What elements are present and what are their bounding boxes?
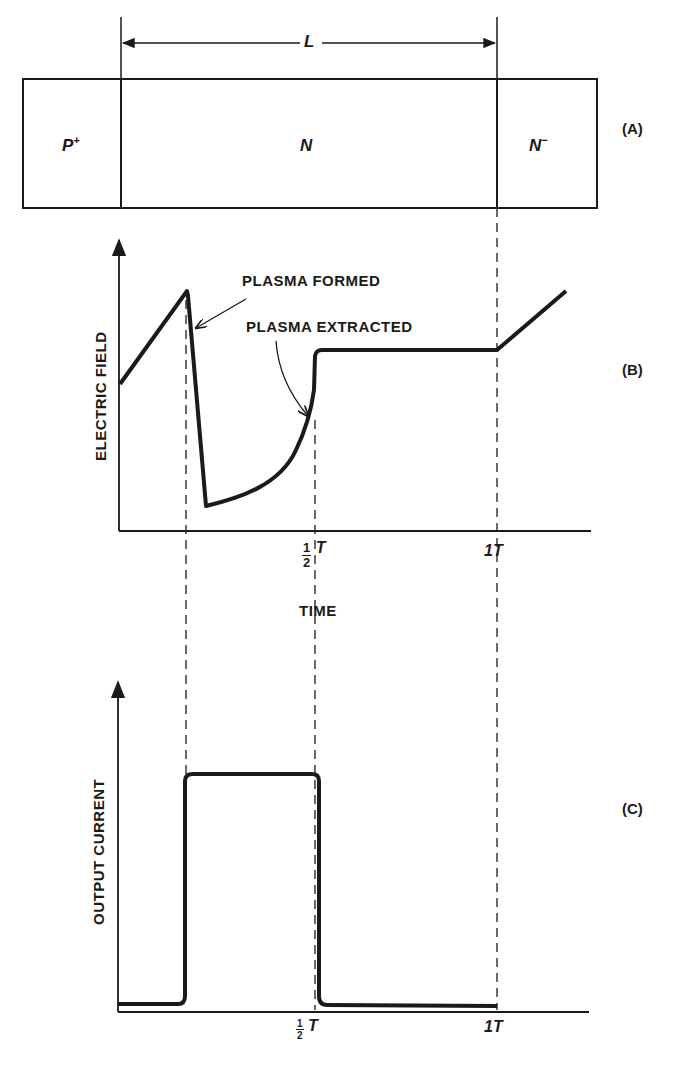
region-n-minus: N− [529,134,548,156]
fraction-denominator-c: 2 [296,1030,304,1041]
tick-T-symbol: T [316,539,326,556]
panel-tag-a: (A) [622,120,643,137]
fraction-one-half: 12 [302,541,311,570]
tick-1T-c: 1T [484,1018,503,1036]
region-p-plus: P+ [62,134,80,156]
panel-tag-c: (C) [622,800,643,817]
annotation-plasma-extracted: PLASMA EXTRACTED [246,318,413,335]
y-axis-label-output-current: OUTPUT CURRENT [90,779,107,925]
tick-T-symbol-c: T [308,1017,318,1034]
panel-tag-b: (B) [622,361,643,378]
region-n-minus-label: N [529,136,541,155]
tick-half-T-b: 12 T [302,541,325,570]
tick-1T-b: 1T [484,542,503,560]
tick-1T-label-c: 1T [484,1018,503,1035]
plasma-formed-leader [196,299,246,328]
fraction-numerator-c: 1 [296,1018,304,1030]
region-n-minus-sup: − [541,134,547,146]
tick-1T-label: 1T [484,542,503,559]
length-label: L [304,32,314,52]
plasma-extracted-leader [276,341,308,416]
y-axis-label-electric-field: ELECTRIC FIELD [92,332,109,462]
length-symbol: L [304,32,314,51]
region-n: N [300,136,312,156]
x-axis-label-time: TIME [299,602,337,619]
fraction-one-half-c: 12 [296,1018,304,1041]
region-n-label: N [300,136,312,155]
region-p-plus-sup: + [73,134,79,146]
tick-half-T-c: 12 T [296,1018,318,1041]
fraction-numerator: 1 [302,541,311,556]
annotation-plasma-formed: PLASMA FORMED [242,272,380,289]
fraction-denominator: 2 [302,556,311,570]
region-p-plus-label: P [62,136,73,155]
output-current-pulse [118,774,497,1006]
output-current-chart [118,682,589,1012]
